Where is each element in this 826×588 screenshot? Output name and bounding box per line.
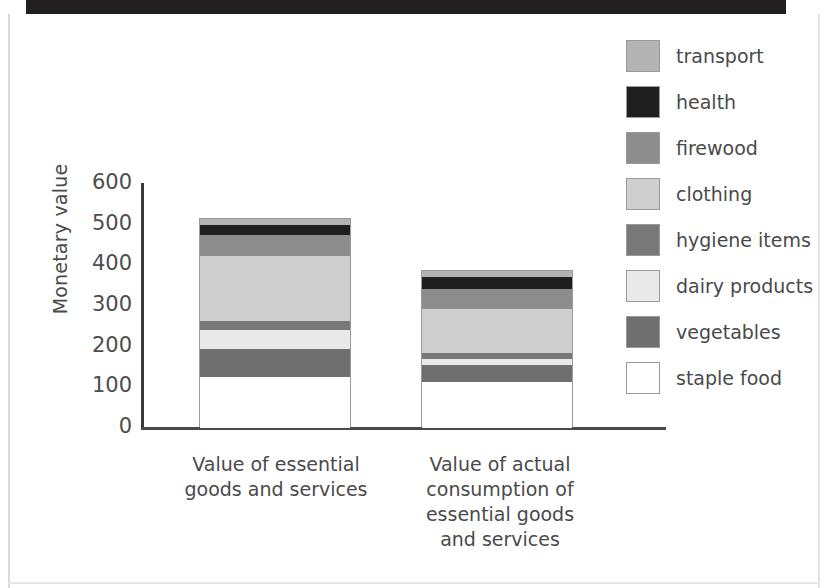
- y-axis-line: [141, 183, 144, 428]
- legend-item-firewood[interactable]: firewood: [626, 125, 826, 171]
- bar-segment-dairy-products[interactable]: [200, 330, 350, 349]
- y-axis-title: Monetary value: [49, 139, 71, 339]
- bar-segment-firewood[interactable]: [422, 289, 572, 309]
- bar-segment-staple-food[interactable]: [422, 382, 572, 428]
- bar-segment-health[interactable]: [422, 277, 572, 289]
- y-tick-100: 100: [76, 375, 132, 396]
- legend-item-vegetables[interactable]: vegetables: [626, 309, 826, 355]
- stacked-bar-1[interactable]: [199, 218, 351, 427]
- bar-segment-clothing[interactable]: [200, 256, 350, 321]
- legend-label: vegetables: [676, 321, 781, 343]
- legend-label: firewood: [676, 137, 758, 159]
- legend-label: staple food: [676, 367, 782, 389]
- legend-swatch-icon: [626, 270, 660, 302]
- legend-swatch-icon: [626, 86, 660, 118]
- bar-segment-hygiene-items[interactable]: [200, 321, 350, 330]
- legend-swatch-icon: [626, 362, 660, 394]
- legend-swatch-icon: [626, 132, 660, 164]
- chart-legend: transporthealthfirewoodclothinghygiene i…: [626, 33, 826, 401]
- legend-swatch-icon: [626, 224, 660, 256]
- legend-label: clothing: [676, 183, 752, 205]
- stacked-bar-2[interactable]: [421, 270, 573, 427]
- bar-segment-firewood[interactable]: [200, 235, 350, 256]
- legend-swatch-icon: [626, 178, 660, 210]
- bar-segment-vegetables[interactable]: [422, 365, 572, 382]
- legend-swatch-icon: [626, 40, 660, 72]
- legend-item-hygiene-items[interactable]: hygiene items: [626, 217, 826, 263]
- bar-segment-vegetables[interactable]: [200, 349, 350, 377]
- x-axis-label-1: Value of essential goods and services: [184, 452, 368, 502]
- bar-segment-health[interactable]: [200, 225, 350, 235]
- y-axis-tick-labels: 6005004003002001000: [76, 0, 132, 430]
- legend-label: dairy products: [676, 275, 813, 297]
- y-tick-300: 300: [76, 294, 132, 315]
- legend-item-health[interactable]: health: [626, 79, 826, 125]
- legend-label: transport: [676, 45, 764, 67]
- legend-item-clothing[interactable]: clothing: [626, 171, 826, 217]
- legend-item-dairy-products[interactable]: dairy products: [626, 263, 826, 309]
- y-tick-0: 0: [76, 416, 132, 437]
- legend-swatch-icon: [626, 316, 660, 348]
- y-tick-600: 600: [76, 172, 132, 193]
- y-tick-500: 500: [76, 213, 132, 234]
- legend-item-staple-food[interactable]: staple food: [626, 355, 826, 401]
- x-axis-label-2: Value of actual consumption of essential…: [408, 452, 592, 552]
- y-tick-200: 200: [76, 335, 132, 356]
- bar-segment-clothing[interactable]: [422, 309, 572, 353]
- bar-segment-staple-food[interactable]: [200, 377, 350, 428]
- chart-page: Monetary value 6005004003002001000 Value…: [0, 0, 826, 588]
- y-tick-400: 400: [76, 253, 132, 274]
- legend-item-transport[interactable]: transport: [626, 33, 826, 79]
- legend-label: health: [676, 91, 736, 113]
- legend-label: hygiene items: [676, 229, 811, 251]
